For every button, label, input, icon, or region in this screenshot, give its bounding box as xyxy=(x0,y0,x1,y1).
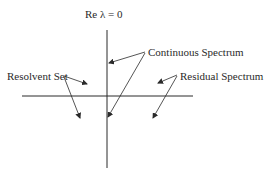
label-continuous-spectrum: Continuous Spectrum xyxy=(148,46,244,58)
resolvent-arrow-lower xyxy=(64,77,80,118)
spectrum-diagram: Re λ = 0 Continuous Spectrum Resolvent S… xyxy=(0,0,265,176)
residual-arrow-upper xyxy=(158,75,177,83)
diagram-canvas xyxy=(0,0,265,176)
label-residual-spectrum: Residual Spectrum xyxy=(180,70,263,82)
residual-arrow-lower xyxy=(153,76,177,118)
axis-label-re-lambda: Re λ = 0 xyxy=(85,8,123,20)
label-resolvent-set: Resolvent Set xyxy=(7,70,68,82)
continuous-arrow-upper xyxy=(109,52,145,63)
continuous-arrow-lower xyxy=(108,53,145,117)
